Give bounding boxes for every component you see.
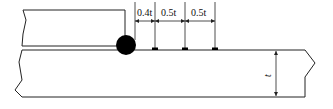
base-plate: [15, 50, 315, 97]
dimension-label-3: 0.5t: [191, 7, 207, 18]
top-plate: [22, 10, 125, 46]
dimension-label-2: 0.5t: [161, 7, 177, 18]
weld-bead: [116, 35, 136, 55]
dimension-label-1: 0.4t: [137, 7, 153, 18]
weld-diagram: 0.4t 0.5t 0.5t t: [0, 0, 333, 109]
thickness-label: t: [262, 74, 273, 77]
